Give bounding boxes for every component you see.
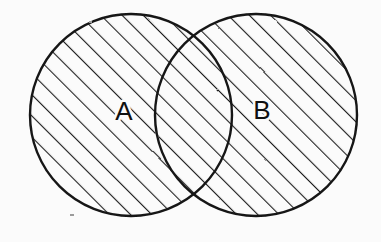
scan-speck [89, 21, 92, 23]
venn-diagram-canvas: A A B B [0, 0, 381, 242]
scan-speck [70, 214, 74, 216]
venn-diagram-figure: A A B B [0, 0, 381, 242]
set-label-a: A [115, 96, 133, 126]
set-label-b: B [253, 95, 270, 125]
